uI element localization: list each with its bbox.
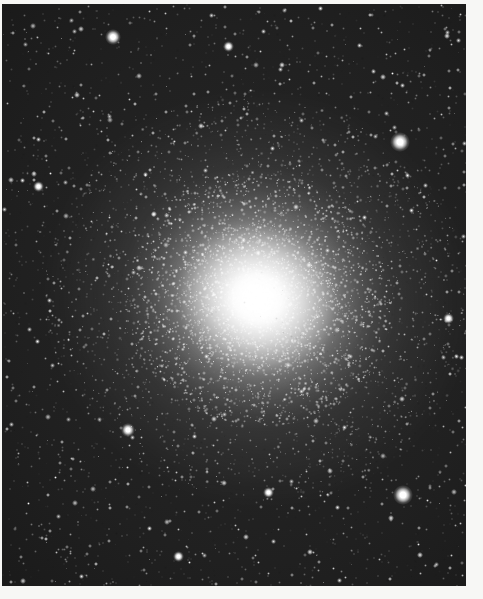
photograph-page bbox=[0, 0, 483, 599]
plate-margin-bottom bbox=[0, 586, 483, 599]
plate-margin-right bbox=[466, 0, 483, 599]
photographic-plate bbox=[2, 4, 466, 586]
sky-background bbox=[2, 4, 466, 586]
